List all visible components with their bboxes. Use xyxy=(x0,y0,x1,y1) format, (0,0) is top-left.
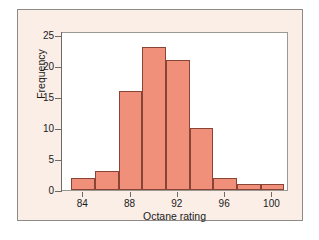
x-axis-title: Octane rating xyxy=(61,210,288,222)
x-axis-tick-label: 96 xyxy=(209,198,239,209)
figure-panel: 0510152025 Frequency 84889296100 Octane … xyxy=(17,9,303,221)
y-axis-tick xyxy=(55,129,61,130)
y-axis-tick-label: 10 xyxy=(30,124,54,134)
y-axis-tick xyxy=(55,67,61,68)
x-axis-tick xyxy=(271,192,272,197)
y-axis-tick-label: 5 xyxy=(30,155,54,165)
histogram-bar xyxy=(95,171,119,190)
y-axis-line xyxy=(61,32,62,192)
y-axis-tick xyxy=(55,98,61,99)
y-axis-tick xyxy=(55,36,61,37)
histogram-bar xyxy=(261,184,285,190)
x-axis-tick-label: 84 xyxy=(67,198,97,209)
x-axis-tick xyxy=(224,192,225,197)
y-axis-tick-label: 0 xyxy=(30,186,54,196)
histogram-bar xyxy=(119,91,143,190)
x-axis-tick xyxy=(82,192,83,197)
plot-area xyxy=(61,32,288,191)
histogram-bar xyxy=(166,60,190,190)
histogram-bar xyxy=(142,47,166,190)
x-axis-tick xyxy=(177,192,178,197)
x-axis-tick-label: 88 xyxy=(115,198,145,209)
y-axis-title: Frequency xyxy=(35,29,47,119)
histogram-bar xyxy=(237,184,261,190)
histogram-bar xyxy=(213,178,237,190)
x-axis-tick-label: 92 xyxy=(162,198,192,209)
histogram-bar xyxy=(71,178,95,190)
y-axis-tick xyxy=(55,160,61,161)
x-axis-tick xyxy=(130,192,131,197)
histogram-bar xyxy=(190,128,214,190)
y-axis-tick xyxy=(55,191,61,192)
histogram-bars xyxy=(62,33,287,190)
x-axis-tick-label: 100 xyxy=(256,198,286,209)
